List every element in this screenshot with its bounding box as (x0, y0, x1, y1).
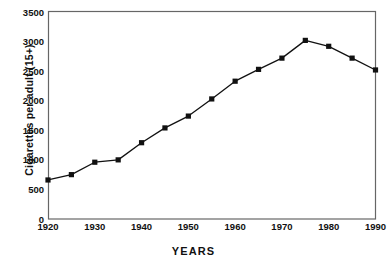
data-point-marker (45, 177, 50, 182)
data-point-marker (326, 44, 331, 49)
chart-figure: Cigarettes per adult (15+) 0500100015002… (0, 0, 387, 268)
data-point-marker (209, 96, 214, 101)
data-point-marker (233, 79, 238, 84)
data-point-marker (256, 67, 261, 72)
x-axis-title: YEARS (0, 245, 387, 257)
data-point-marker (92, 160, 97, 165)
plot-frame (49, 12, 376, 220)
data-point-marker (186, 113, 191, 118)
data-point-marker (350, 56, 355, 61)
data-point-marker (116, 157, 121, 162)
data-point-marker (69, 172, 74, 177)
data-point-marker (303, 38, 308, 43)
data-markers (45, 38, 378, 183)
data-line (48, 40, 376, 180)
data-point-marker (139, 140, 144, 145)
data-point-marker (373, 67, 378, 72)
plot-area (0, 0, 387, 268)
data-point-marker (162, 125, 167, 130)
data-point-marker (279, 56, 284, 61)
